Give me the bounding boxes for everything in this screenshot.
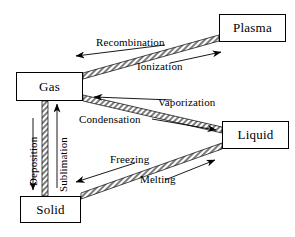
transition-label-melting: Melting xyxy=(140,173,176,185)
node-solid-label: Solid xyxy=(36,202,64,218)
transition-label-ionization: Ionization xyxy=(137,60,183,72)
node-gas-label: Gas xyxy=(39,79,60,95)
node-liquid[interactable]: Liquid xyxy=(222,121,289,149)
band-liquid-solid xyxy=(81,143,222,199)
node-gas[interactable]: Gas xyxy=(16,72,83,101)
node-solid[interactable]: Solid xyxy=(20,196,81,223)
node-plasma-label: Plasma xyxy=(233,20,272,36)
node-plasma[interactable]: Plasma xyxy=(219,14,286,42)
transition-label-freezing: Freezing xyxy=(110,153,149,165)
transition-label-vaporization: Vaporization xyxy=(158,96,215,108)
phase-transition-diagram: Plasma Gas Liquid Solid Recombination Io… xyxy=(0,0,295,237)
transition-label-condensation: Condensation xyxy=(79,113,141,125)
transition-label-deposition: Deposition xyxy=(27,137,39,186)
band-gas-solid xyxy=(42,101,48,196)
transition-label-sublimation: Sublimation xyxy=(57,137,69,192)
node-liquid-label: Liquid xyxy=(238,127,274,143)
transition-label-recombination: Recombination xyxy=(96,36,165,48)
